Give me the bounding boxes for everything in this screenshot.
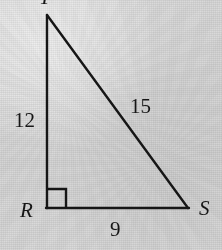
geometry-figure: T R S 12 15 9 xyxy=(0,0,222,250)
side-length-label-vertical-leg: 12 xyxy=(14,110,35,131)
side-length-label-hypotenuse: 15 xyxy=(130,96,151,117)
triangle-side-hypotenuse xyxy=(47,15,188,208)
vertex-label-r: R xyxy=(20,200,33,221)
side-length-label-horizontal-leg: 9 xyxy=(110,219,121,240)
right-angle-marker xyxy=(47,189,66,208)
vertex-label-top: T xyxy=(39,0,51,8)
vertex-label-s: S xyxy=(199,198,210,219)
